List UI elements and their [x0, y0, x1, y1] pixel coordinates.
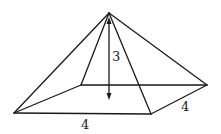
- height-arrowhead-bottom-icon: [107, 93, 112, 100]
- lateral-edge-back-left: [81, 13, 109, 85]
- base-front-edge: [14, 113, 151, 114]
- pyramid-diagram: 3 4 4: [0, 0, 221, 134]
- base-left-edge: [14, 85, 81, 113]
- base-front-label: 4: [81, 118, 89, 131]
- base-right-edge: [151, 85, 207, 114]
- base-side-label: 4: [181, 100, 189, 113]
- height-label: 3: [112, 50, 120, 63]
- lateral-edge-front-left: [14, 13, 109, 113]
